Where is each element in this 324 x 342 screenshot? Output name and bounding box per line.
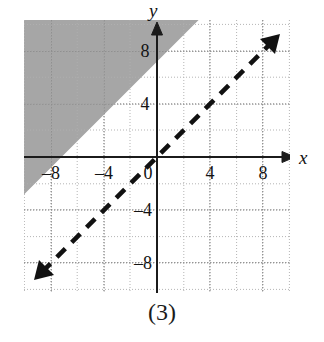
figure-caption: (3) [0, 300, 324, 324]
xtick-label-8: 8 [259, 164, 268, 182]
ytick-label-4: 4 [141, 95, 150, 113]
xtick-label-minus8: –8 [42, 164, 60, 182]
x-axis-arrow [282, 152, 290, 163]
coordinate-plane [24, 20, 290, 293]
ytick-label-minus4: –4 [134, 201, 152, 219]
x-axis-label: x [299, 148, 307, 167]
xtick-label-4: 4 [206, 164, 215, 182]
ytick-label-minus8: –8 [134, 254, 152, 272]
y-axis-label: y [149, 1, 157, 20]
figure-container: x y –8 –4 0 4 8 8 4 –4 –8 (3) [0, 0, 324, 342]
ytick-label-8: 8 [141, 42, 150, 60]
graph-svg [24, 20, 290, 293]
xtick-label-zero: 0 [144, 164, 153, 182]
xtick-label-minus4: –4 [95, 164, 113, 182]
